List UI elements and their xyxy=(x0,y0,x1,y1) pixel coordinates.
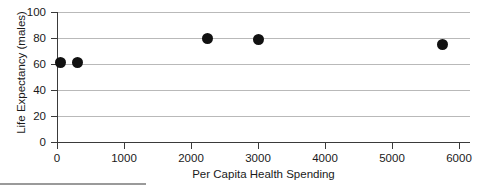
x-tick-3000 xyxy=(258,143,259,149)
gridline-60 xyxy=(57,64,470,65)
y-axis-title: Life Expectancy (males) xyxy=(15,0,28,148)
x-tick-label-3000: 3000 xyxy=(228,152,288,164)
x-tick-label-2000: 2000 xyxy=(161,152,221,164)
footer-divider xyxy=(0,183,146,185)
y-tick-20 xyxy=(51,116,57,117)
plot-area xyxy=(57,12,470,142)
x-tick-5000 xyxy=(392,143,393,149)
x-tick-label-4000: 4000 xyxy=(295,152,355,164)
data-point-1 xyxy=(55,57,66,68)
x-tick-2000 xyxy=(191,143,192,149)
gridline-20 xyxy=(57,116,470,117)
y-tick-100 xyxy=(51,12,57,13)
x-tick-1000 xyxy=(124,143,125,149)
x-tick-label-5000: 5000 xyxy=(362,152,422,164)
x-axis-title: Per Capita Health Spending xyxy=(57,168,470,181)
x-tick-label-1000: 1000 xyxy=(94,152,154,164)
x-tick-label-6000: 6000 xyxy=(429,152,488,164)
x-tick-4000 xyxy=(325,143,326,149)
gridline-100 xyxy=(57,12,470,13)
data-point-4 xyxy=(253,34,264,45)
data-point-5 xyxy=(437,39,448,50)
x-tick-label-0: 0 xyxy=(27,152,87,164)
y-axis-line xyxy=(57,12,58,143)
y-tick-80 xyxy=(51,38,57,39)
scatter-chart-figure: 100 80 60 40 20 0 0 1000 2000 3000 4000 … xyxy=(0,0,488,194)
gridline-40 xyxy=(57,90,470,91)
x-axis-line xyxy=(57,142,470,143)
data-point-3 xyxy=(202,33,213,44)
data-point-2 xyxy=(72,57,83,68)
y-tick-40 xyxy=(51,90,57,91)
gridline-80 xyxy=(57,38,470,39)
x-tick-0 xyxy=(57,143,58,149)
x-tick-6000 xyxy=(459,143,460,149)
